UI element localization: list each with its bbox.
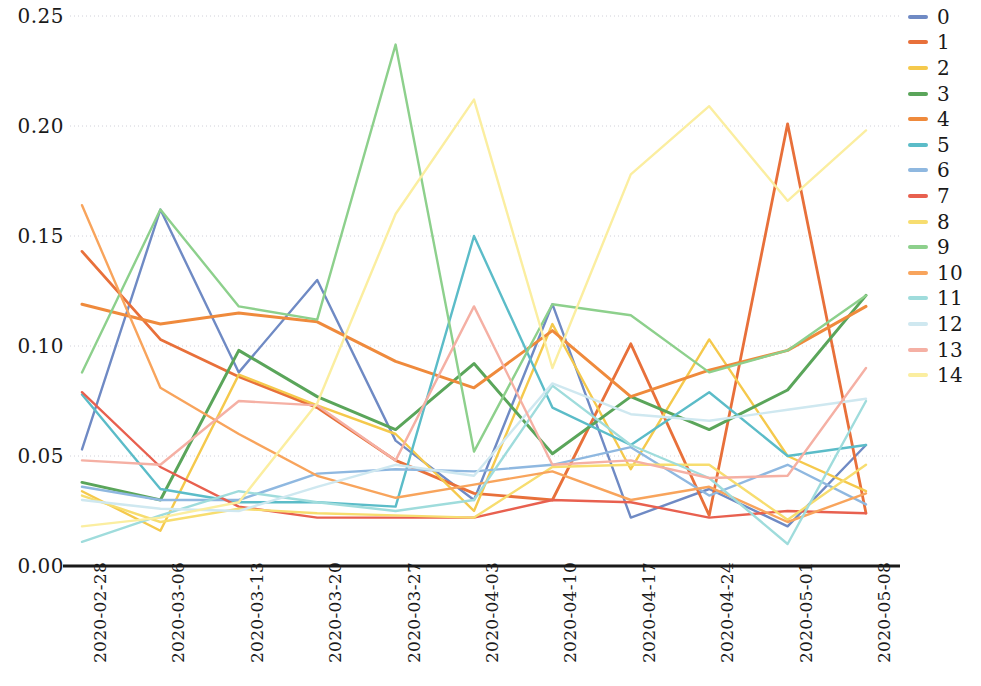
legend-swatch-icon [908,296,928,300]
legend-swatch-icon [908,322,928,326]
x-tick-label: 2020-05-01 [796,562,816,663]
y-tick-label: 0.20 [0,114,64,138]
legend-item-label: 8 [937,212,950,232]
series-lines [82,45,866,544]
legend-swatch-icon [908,373,928,377]
x-tick-label: 2020-03-20 [325,562,345,663]
legend-item-14[interactable]: 14 [908,362,981,388]
legend: 01234567891011121314 [908,4,981,388]
x-tick-label: 2020-02-28 [90,562,110,663]
legend-swatch-icon [908,117,928,121]
x-tick-label: 2020-05-08 [874,562,894,663]
y-tick-label: 0.00 [0,554,64,578]
legend-item-label: 2 [937,58,950,78]
legend-swatch-icon [908,66,928,70]
x-tick-label: 2020-04-17 [639,562,659,663]
legend-swatch-icon [908,168,928,172]
legend-swatch-icon [908,194,928,198]
legend-item-2[interactable]: 2 [908,55,981,81]
legend-swatch-icon [908,15,928,19]
series-line-5 [82,236,866,507]
legend-item-label: 12 [937,314,963,334]
legend-item-label: 4 [937,109,950,129]
legend-item-label: 11 [937,288,963,308]
chart-root: 0.000.050.100.150.200.25 2020-02-282020-… [0,0,981,686]
legend-item-label: 13 [937,340,963,360]
legend-item-7[interactable]: 7 [908,183,981,209]
legend-item-label: 3 [937,84,950,104]
legend-item-12[interactable]: 12 [908,311,981,337]
legend-item-label: 6 [937,160,950,180]
y-tick-label: 0.15 [0,224,64,248]
legend-item-8[interactable]: 8 [908,209,981,235]
line-chart: 0.000.050.100.150.200.25 2020-02-282020-… [0,0,981,686]
x-tick-label: 2020-04-10 [560,562,580,663]
y-tick-label: 0.25 [0,4,64,28]
legend-item-label: 14 [937,365,963,385]
legend-item-label: 5 [937,135,950,155]
gridlines [70,16,900,456]
x-tick-label: 2020-03-06 [168,562,188,663]
x-tick-label: 2020-03-27 [404,562,424,663]
x-tick-label: 2020-04-03 [482,562,502,663]
legend-item-13[interactable]: 13 [908,337,981,363]
legend-item-9[interactable]: 9 [908,234,981,260]
x-tick-label: 2020-04-24 [717,562,737,663]
legend-swatch-icon [908,348,928,352]
legend-swatch-icon [908,92,928,96]
legend-swatch-icon [908,271,928,275]
legend-item-label: 9 [937,237,950,257]
legend-item-label: 1 [937,32,950,52]
y-tick-label: 0.10 [0,334,64,358]
legend-item-6[interactable]: 6 [908,158,981,184]
series-line-9 [82,45,866,452]
legend-item-5[interactable]: 5 [908,132,981,158]
y-tick-label: 0.05 [0,444,64,468]
legend-item-label: 0 [937,7,950,27]
legend-swatch-icon [908,220,928,224]
x-tick-label: 2020-03-13 [247,562,267,663]
legend-item-11[interactable]: 11 [908,286,981,312]
legend-item-4[interactable]: 4 [908,106,981,132]
legend-item-label: 7 [937,186,950,206]
legend-item-3[interactable]: 3 [908,81,981,107]
legend-item-1[interactable]: 1 [908,30,981,56]
legend-item-label: 10 [937,263,963,283]
legend-swatch-icon [908,245,928,249]
legend-swatch-icon [908,143,928,147]
legend-item-10[interactable]: 10 [908,260,981,286]
legend-swatch-icon [908,40,928,44]
legend-item-0[interactable]: 0 [908,4,981,30]
